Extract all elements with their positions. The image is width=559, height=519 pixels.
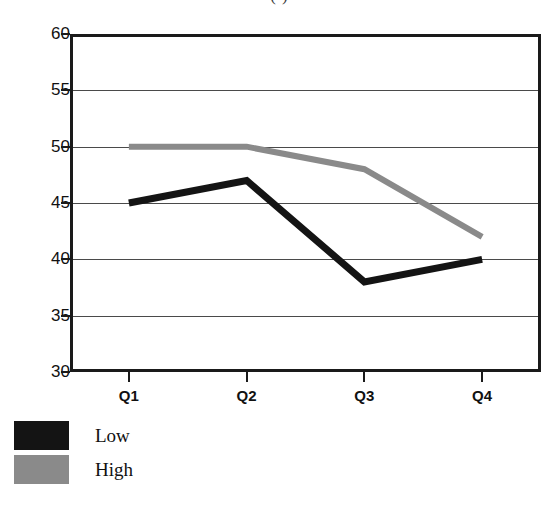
y-tick-mark xyxy=(61,315,70,317)
y-tick-mark xyxy=(61,202,70,204)
legend-label: High xyxy=(95,460,133,479)
x-axis: Q1Q2Q3Q4 xyxy=(0,370,559,410)
x-tick-mark xyxy=(246,372,248,382)
x-tick-mark xyxy=(128,372,130,382)
series-line-low xyxy=(129,180,482,281)
series-layer xyxy=(70,34,541,372)
x-tick-mark xyxy=(363,372,365,382)
chart-legend: LowHigh xyxy=(14,418,254,486)
cropped-chart-title: ( ) xyxy=(0,0,559,14)
legend-item-high: High xyxy=(14,452,254,486)
x-tick-label: Q4 xyxy=(472,388,492,403)
y-tick-mark xyxy=(61,146,70,148)
x-tick-label: Q2 xyxy=(237,388,257,403)
y-tick-mark xyxy=(61,33,70,35)
cropped-chart-title-text: ( ) xyxy=(270,0,289,3)
x-tick-label: Q1 xyxy=(119,388,139,403)
legend-swatch-low xyxy=(14,421,69,450)
x-tick-mark xyxy=(481,372,483,382)
x-tick-label: Q3 xyxy=(354,388,374,403)
line-chart-figure: ( ) 30354045505560 Q1Q2Q3Q4 LowHigh xyxy=(0,0,559,519)
legend-item-low: Low xyxy=(14,418,254,452)
legend-swatch-high xyxy=(14,455,69,484)
y-tick-mark xyxy=(61,258,70,260)
y-tick-mark xyxy=(61,89,70,91)
legend-label: Low xyxy=(95,426,130,445)
